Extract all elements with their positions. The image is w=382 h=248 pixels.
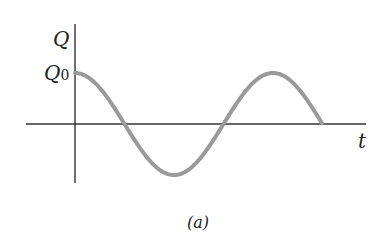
x-axis-label: t	[358, 129, 367, 153]
oscillation-diagram: Q Q0 t (a)	[0, 0, 382, 248]
caption: (a)	[187, 213, 209, 232]
q0-label: Q0	[44, 61, 69, 85]
y-axis-label: Q	[53, 27, 69, 51]
